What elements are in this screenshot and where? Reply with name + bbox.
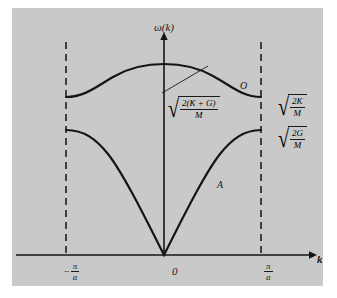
y-axis bbox=[160, 32, 167, 255]
radical-sign-icon: √ bbox=[278, 123, 289, 154]
optical-branch-label: O bbox=[240, 81, 247, 91]
radicand-denominator: M bbox=[290, 108, 305, 119]
dispersion-plot-svg bbox=[12, 8, 323, 286]
zone-edge-lower-formula: √ 2G M bbox=[278, 126, 307, 151]
radicand: 2K M bbox=[288, 94, 307, 119]
radicand-numerator: 2(K + G) bbox=[180, 98, 218, 110]
zone-center-gap-formula: √ 2(K + G) M bbox=[168, 96, 220, 121]
radical-sign-icon: √ bbox=[278, 91, 289, 122]
x-tick-label-left: −πa bbox=[64, 261, 79, 283]
radicand-numerator: 2G bbox=[290, 128, 305, 140]
fraction-denominator: a bbox=[264, 272, 273, 282]
radicand: 2G M bbox=[288, 126, 307, 151]
origin-tick-label: 0 bbox=[172, 266, 178, 277]
fraction-numerator: π bbox=[264, 261, 273, 272]
radicand-numerator: 2K bbox=[290, 96, 305, 108]
zone-edge-upper-formula: √ 2K M bbox=[278, 94, 307, 119]
fraction-numerator: π bbox=[71, 261, 80, 272]
acoustic-branch-label: A bbox=[217, 180, 223, 190]
radicand-denominator: M bbox=[290, 140, 305, 151]
x-axis-label: k bbox=[317, 254, 323, 265]
radicand: 2(K + G) M bbox=[178, 96, 220, 121]
phonon-dispersion-figure: ω(k) k O A 0 −πa πa √ 2(K + G) M √ 2K bbox=[0, 0, 337, 298]
y-axis-label: ω(k) bbox=[154, 22, 174, 33]
pi-over-a-fraction: πa bbox=[71, 261, 80, 283]
radicand-denominator: M bbox=[180, 110, 218, 121]
pi-over-a-fraction: πa bbox=[264, 261, 273, 283]
radical-sign-icon: √ bbox=[168, 93, 179, 124]
gap-formula-leader-line bbox=[162, 66, 208, 93]
x-tick-label-right: πa bbox=[264, 261, 273, 283]
fraction-denominator: a bbox=[71, 272, 80, 282]
minus-sign: − bbox=[64, 267, 71, 277]
plot-panel: ω(k) k O A 0 −πa πa √ 2(K + G) M √ 2K bbox=[12, 8, 323, 286]
